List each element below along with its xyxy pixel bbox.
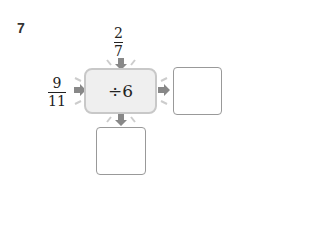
operation-box: ÷6 [84,68,157,114]
operation-label: ÷6 [108,81,133,101]
answer-box-right[interactable] [173,67,222,115]
answer-box-bottom[interactable] [96,127,146,175]
